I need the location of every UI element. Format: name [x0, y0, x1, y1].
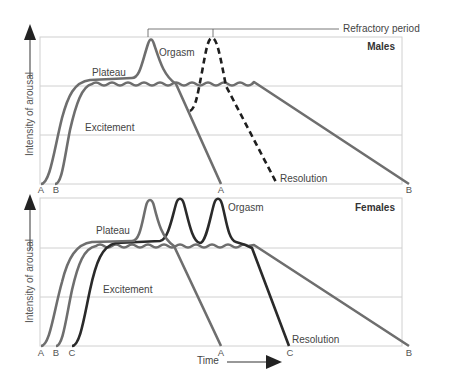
females-panel: Intensity of arousal Females Orgasm Plat…	[24, 194, 412, 369]
time-axis-label: Time	[197, 355, 219, 366]
males-y-axis-label: Intensity of arousal	[24, 72, 35, 156]
males-y-axis-arrow-icon	[24, 24, 36, 78]
females-tick-a-end: A	[218, 347, 225, 358]
females-y-axis-label: Intensity of arousal	[24, 239, 35, 323]
females-curve-b	[56, 245, 409, 347]
sexual-response-cycle-diagram: Intensity of arousal Refractory period M…	[0, 0, 452, 385]
males-tick-b-start: B	[53, 184, 59, 195]
females-tick-b-end: B	[406, 347, 412, 358]
males-excitement-label: Excitement	[85, 122, 135, 133]
males-panel: Intensity of arousal Refractory period M…	[24, 23, 420, 195]
males-tick-a-end: A	[218, 184, 225, 195]
males-resolution-label: Resolution	[280, 173, 327, 184]
males-orgasm-label: Orgasm	[159, 47, 195, 58]
females-plateau-label: Plateau	[96, 225, 130, 236]
females-orgasm-label: Orgasm	[228, 202, 264, 213]
females-tick-c-start: C	[69, 347, 76, 358]
refractory-period-bracket	[148, 29, 339, 37]
females-tick-c-end: C	[287, 347, 294, 358]
females-excitement-label: Excitement	[103, 284, 153, 295]
males-plateau-label: Plateau	[92, 67, 126, 78]
females-tick-b-start: B	[53, 347, 59, 358]
males-tick-a-start: A	[38, 184, 45, 195]
refractory-period-label: Refractory period	[343, 23, 420, 34]
females-curve-c	[72, 199, 289, 346]
males-title: Males	[367, 41, 395, 52]
time-axis-arrow-icon	[227, 355, 282, 369]
males-tick-b-end: B	[406, 184, 412, 195]
females-curve-a	[41, 200, 221, 346]
females-tick-a-start: A	[38, 347, 45, 358]
males-curve-refractory-dashed	[190, 38, 277, 184]
females-title: Females	[355, 202, 395, 213]
males-curve-a	[41, 40, 221, 185]
females-resolution-label: Resolution	[292, 334, 339, 345]
